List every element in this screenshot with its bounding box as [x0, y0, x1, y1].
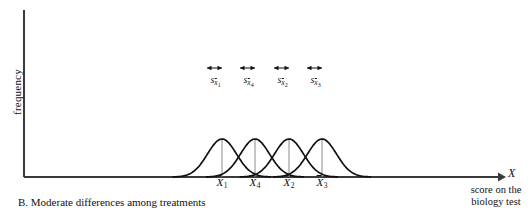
- sd-arrowhead: [307, 66, 312, 71]
- mean-label: X3: [317, 176, 328, 190]
- mean-label: X4: [250, 176, 261, 190]
- sd-arrowhead: [240, 66, 245, 71]
- sd-label: sx3: [310, 74, 320, 88]
- sd-arrows-group: [207, 66, 322, 71]
- sd-arrowhead: [207, 66, 212, 71]
- sd-arrowhead: [285, 66, 290, 71]
- sd-arrowhead: [318, 66, 323, 71]
- mean-label: X1: [217, 176, 228, 190]
- x-axis-description-line-1: score on the: [463, 184, 529, 196]
- sd-label: sx1: [210, 74, 220, 88]
- normal-curves-group: [173, 139, 370, 177]
- sd-arrowhead: [251, 66, 256, 71]
- sd-label: sx4: [243, 74, 253, 88]
- x-axis-description-line-2: biology test: [463, 196, 529, 208]
- mean-label: X2: [284, 176, 295, 190]
- x-axis-arrowhead: [498, 173, 506, 182]
- axes-group: [24, 10, 506, 182]
- distribution-plot: [0, 0, 531, 213]
- figure-container: frequency X score on the biology test B.…: [0, 0, 531, 213]
- sd-arrowhead: [218, 66, 223, 71]
- y-axis-label: frequency: [11, 42, 23, 142]
- sd-label: sx2: [277, 74, 287, 88]
- sd-arrowhead: [274, 66, 279, 71]
- figure-caption: B. Moderate differences among treatments: [18, 196, 206, 208]
- x-axis-variable-label: X: [508, 166, 515, 181]
- x-axis-description: score on the biology test: [463, 184, 529, 208]
